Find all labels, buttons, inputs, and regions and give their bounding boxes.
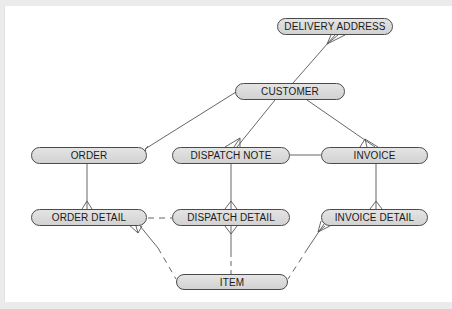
entity-label: ORDER DETAIL [52,212,126,223]
link-delivery-customer [293,35,345,83]
link-order-order-detail [82,164,92,209]
entity-order[interactable]: ORDER [31,147,147,164]
entity-invoice[interactable]: INVOICE [321,147,428,164]
entity-label: DISPATCH NOTE [191,150,272,161]
entity-customer[interactable]: CUSTOMER [235,83,345,100]
link-item-order-detail [128,224,176,279]
entity-delivery-address[interactable]: DELIVERY ADDRESS [277,18,393,35]
entity-label: ITEM [220,277,244,288]
link-item-invoice-detail [288,221,330,279]
entity-item[interactable]: ITEM [176,274,288,290]
entity-label: INVOICE [354,150,396,161]
entity-label: INVOICE DETAIL [335,212,415,223]
link-invoice-invoice-detail [370,164,382,209]
entity-label: DELIVERY ADDRESS [284,21,385,32]
entity-label: CUSTOMER [261,86,319,97]
entity-label: ORDER [71,150,108,161]
entity-invoice-detail[interactable]: INVOICE DETAIL [321,209,428,226]
link-dispatch-note-dispatch-detail [225,164,237,209]
link-item-dispatch-detail [225,226,237,274]
entity-order-detail[interactable]: ORDER DETAIL [31,209,147,226]
entity-dispatch-detail[interactable]: DISPATCH DETAIL [172,209,290,226]
link-customer-invoice [307,100,378,147]
link-customer-dispatch-note [225,100,275,147]
entity-label: DISPATCH DETAIL [187,212,275,223]
entity-dispatch-note[interactable]: DISPATCH NOTE [172,147,290,164]
